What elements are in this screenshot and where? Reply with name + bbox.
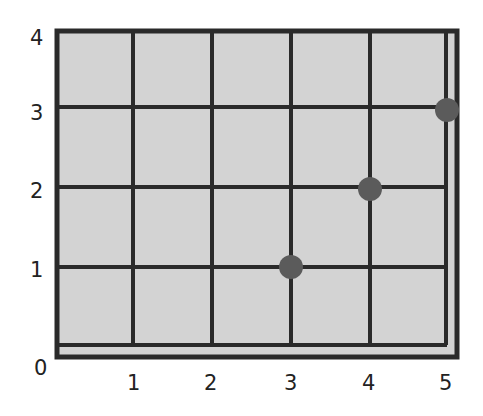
x-tick-4: 4 <box>362 371 375 395</box>
x-tick-2: 2 <box>204 371 217 395</box>
y-tick-4: 4 <box>30 26 43 50</box>
x-axis-labels: 1 2 3 4 5 <box>127 371 452 395</box>
plot-area <box>57 31 457 357</box>
x-tick-1: 1 <box>127 371 140 395</box>
y-tick-3: 3 <box>30 101 43 125</box>
data-point <box>279 255 303 279</box>
data-point <box>435 98 459 122</box>
x-tick-5: 5 <box>439 371 452 395</box>
y-tick-1: 1 <box>30 258 43 282</box>
y-axis-labels: 4 3 2 1 <box>30 26 43 282</box>
data-point <box>358 177 382 201</box>
grid-diagram: 4 3 2 1 0 1 2 3 4 5 <box>0 0 483 416</box>
x-tick-3: 3 <box>284 371 297 395</box>
origin-label: 0 <box>34 356 47 380</box>
y-tick-2: 2 <box>30 179 43 203</box>
